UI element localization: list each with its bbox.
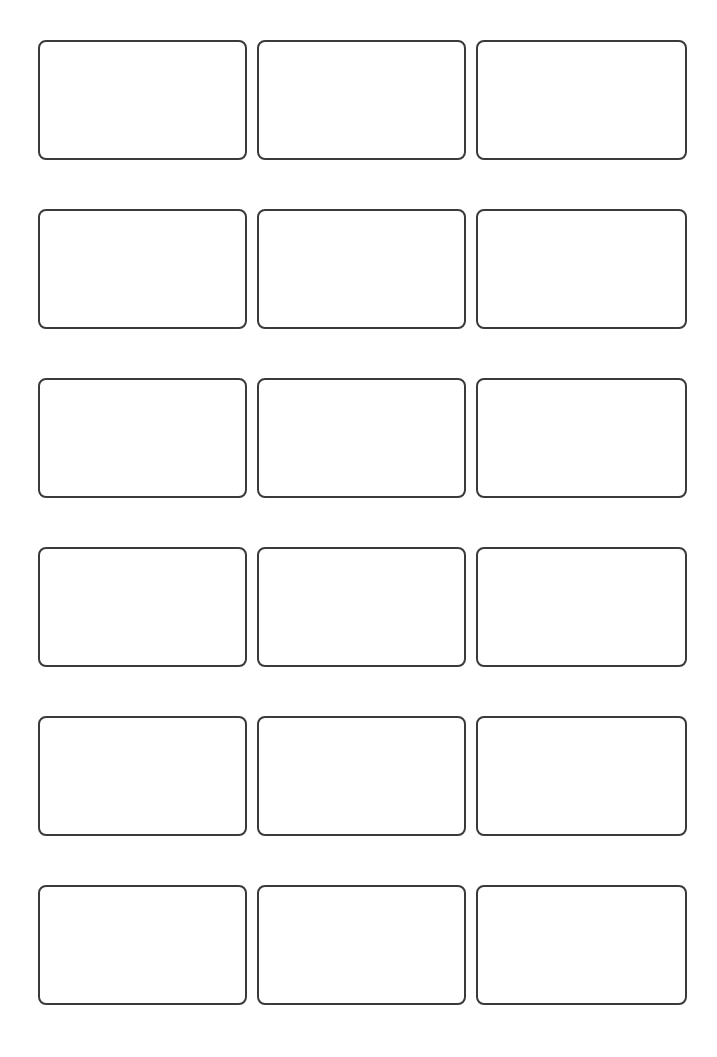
label-r3-c1 [38, 378, 247, 498]
label-r2-c2 [257, 209, 466, 329]
label-r3-c3 [476, 378, 687, 498]
label-r2-c3 [476, 209, 687, 329]
label-r1-c3 [476, 40, 687, 160]
label-r1-c1 [38, 40, 247, 160]
label-r4-c2 [257, 547, 466, 667]
label-r4-c3 [476, 547, 687, 667]
label-sheet [38, 40, 687, 1005]
label-r5-c3 [476, 716, 687, 836]
label-r6-c2 [257, 885, 466, 1005]
label-r6-c3 [476, 885, 687, 1005]
label-r3-c2 [257, 378, 466, 498]
label-r6-c1 [38, 885, 247, 1005]
label-r5-c1 [38, 716, 247, 836]
label-r2-c1 [38, 209, 247, 329]
label-r5-c2 [257, 716, 466, 836]
label-r1-c2 [257, 40, 466, 160]
label-r4-c1 [38, 547, 247, 667]
